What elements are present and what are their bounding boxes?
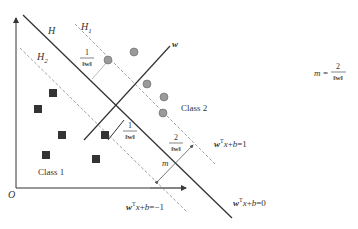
class-2-point bbox=[104, 56, 112, 64]
svm-diagram: O H H1 H2 w 1 ‖w‖ 1 ‖w‖ m 2 ‖w‖ wTx+b=1 … bbox=[0, 0, 358, 229]
class-1-point bbox=[49, 89, 57, 97]
class-1-point bbox=[101, 131, 109, 139]
margin-formula: m = 2 ‖w‖ bbox=[314, 62, 346, 82]
positive-margin-equation: wTx+b=1 bbox=[214, 138, 247, 149]
class-2-label: Class 2 bbox=[181, 103, 207, 113]
class-1-point bbox=[92, 155, 100, 163]
margin-symbol: m bbox=[162, 158, 169, 168]
positive-margin-label: H1 bbox=[80, 21, 92, 35]
class-2-point bbox=[130, 48, 138, 56]
svg-text:1: 1 bbox=[85, 48, 89, 57]
class-2-point bbox=[159, 109, 167, 117]
class-1-points bbox=[34, 89, 109, 163]
positive-margin-line bbox=[75, 24, 216, 165]
svg-text:2: 2 bbox=[336, 62, 340, 71]
normal-vector-line bbox=[84, 46, 170, 140]
class-1-point bbox=[42, 151, 50, 159]
svg-text:‖w‖: ‖w‖ bbox=[82, 60, 92, 68]
svg-text:1: 1 bbox=[128, 121, 132, 130]
negative-margin-equation: wTx+b=−1 bbox=[126, 201, 164, 212]
class-1-label: Class 1 bbox=[38, 167, 64, 177]
svg-text:‖w‖: ‖w‖ bbox=[171, 145, 181, 153]
svg-text:2: 2 bbox=[174, 133, 178, 142]
support-distance-line-bottom bbox=[108, 120, 124, 140]
negative-margin-line bbox=[20, 48, 187, 212]
negative-margin-label: H2 bbox=[36, 51, 48, 65]
hyperplane-equation: wTx+b=0 bbox=[233, 197, 266, 208]
class-1-point bbox=[58, 131, 66, 139]
svg-text:‖w‖: ‖w‖ bbox=[125, 133, 135, 141]
class-1-point bbox=[34, 105, 42, 113]
origin-label: O bbox=[8, 189, 15, 200]
full-margin-fraction: 2 ‖w‖ bbox=[169, 133, 183, 153]
svg-text:‖w‖: ‖w‖ bbox=[333, 74, 343, 82]
class-2-point bbox=[143, 80, 151, 88]
svg-text:m: m bbox=[314, 68, 321, 78]
support-distance-line-top bbox=[92, 61, 108, 79]
half-margin-top-fraction: 1 ‖w‖ bbox=[80, 48, 94, 68]
class-2-point bbox=[160, 93, 168, 101]
normal-vector-label: w bbox=[172, 39, 179, 49]
svg-text:=: = bbox=[323, 68, 328, 78]
hyperplane-label: H bbox=[47, 25, 56, 36]
